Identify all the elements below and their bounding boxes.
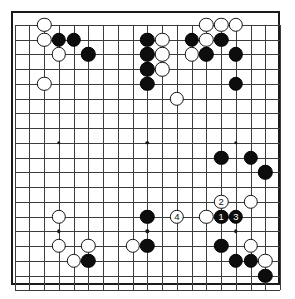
black-stone[interactable] [81,254,95,268]
go-diagram: 2413 [0,0,295,299]
black-stone[interactable] [140,239,154,253]
black-stone[interactable] [214,150,228,164]
black-stone[interactable] [258,268,272,282]
white-stone[interactable] [52,209,66,223]
move-number-label: 4 [174,212,179,222]
black-stone[interactable] [243,150,257,164]
white-stone[interactable] [258,254,272,268]
black-stone[interactable] [140,33,154,47]
black-stone[interactable] [214,239,228,253]
white-stone[interactable] [37,77,51,91]
white-stone[interactable] [243,239,257,253]
black-stone[interactable] [243,254,257,268]
move-number-label: 2 [218,197,223,207]
white-stone[interactable] [199,18,213,32]
move-stone-2[interactable]: 2 [214,195,228,209]
white-stone[interactable] [155,33,169,47]
white-stone[interactable] [37,18,51,32]
white-stone[interactable] [199,33,213,47]
move-stone-4[interactable]: 4 [170,209,184,223]
white-stone[interactable] [81,239,95,253]
white-stone[interactable] [67,254,81,268]
black-stone[interactable] [214,33,228,47]
white-stone[interactable] [52,239,66,253]
black-stone[interactable] [258,165,272,179]
white-stone[interactable] [199,209,213,223]
white-stone[interactable] [155,62,169,76]
white-stone[interactable] [155,47,169,61]
black-stone[interactable] [229,77,243,91]
white-stone[interactable] [243,195,257,209]
black-stone[interactable] [229,254,243,268]
black-stone[interactable] [140,62,154,76]
black-stone[interactable] [140,209,154,223]
black-stone[interactable] [184,33,198,47]
black-stone[interactable] [199,47,213,61]
black-stone[interactable] [81,47,95,61]
black-stone[interactable] [229,47,243,61]
white-stone[interactable] [229,18,243,32]
black-stone[interactable] [140,77,154,91]
move-number-label: 1 [218,212,223,222]
black-stone[interactable] [52,33,66,47]
white-stone[interactable] [214,18,228,32]
move-stone-3[interactable]: 3 [229,209,243,223]
white-stone[interactable] [184,47,198,61]
white-stone[interactable] [37,33,51,47]
move-number-label: 3 [233,212,238,222]
black-stone[interactable] [140,47,154,61]
move-stone-1[interactable]: 1 [214,209,228,223]
white-stone[interactable] [52,47,66,61]
white-stone[interactable] [170,91,184,105]
stone-layer: 2413 [0,0,295,299]
white-stone[interactable] [125,239,139,253]
black-stone[interactable] [67,33,81,47]
